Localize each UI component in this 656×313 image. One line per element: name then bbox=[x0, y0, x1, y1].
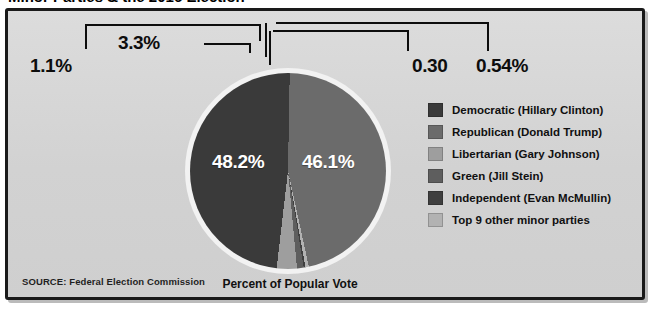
source-note: SOURCE: Federal Election Commission bbox=[22, 276, 205, 287]
callout-label-other: 0.54% bbox=[476, 55, 528, 77]
legend-label: Republican (Donald Trump) bbox=[452, 126, 602, 138]
legend-label: Independent (Evan McMullin) bbox=[452, 192, 611, 204]
slice-label-republican: 46.1% bbox=[302, 151, 354, 173]
legend-row: Green (Jill Stein) bbox=[428, 165, 643, 187]
pie-chart: 48.2% 46.1% bbox=[190, 73, 386, 269]
headline-clipped: Minor Parties & the 2016 Election bbox=[8, 0, 308, 6]
legend-row: Top 9 other minor parties bbox=[428, 209, 643, 231]
legend-swatch-icon bbox=[428, 147, 443, 161]
legend-swatch-icon bbox=[428, 191, 443, 205]
legend: Democratic (Hillary Clinton)Republican (… bbox=[428, 99, 643, 231]
infographic-figure: Minor Parties & the 2016 Election 48.2% … bbox=[0, 0, 656, 313]
legend-swatch-icon bbox=[428, 103, 443, 117]
legend-label: Libertarian (Gary Johnson) bbox=[452, 148, 600, 160]
legend-row: Republican (Donald Trump) bbox=[428, 121, 643, 143]
legend-row: Independent (Evan McMullin) bbox=[428, 187, 643, 209]
callout-label-independent: 0.30 bbox=[412, 55, 447, 77]
legend-swatch-icon bbox=[428, 213, 443, 227]
slice-label-democratic: 48.2% bbox=[212, 151, 264, 173]
legend-label: Green (Jill Stein) bbox=[452, 170, 543, 182]
chart-panel: 48.2% 46.1% Percent of Popular Vote 1.1%… bbox=[5, 8, 645, 300]
legend-swatch-icon bbox=[428, 125, 443, 139]
legend-row: Libertarian (Gary Johnson) bbox=[428, 143, 643, 165]
callout-label-libertarian: 3.3% bbox=[118, 32, 160, 54]
callout-label-green: 1.1% bbox=[30, 55, 72, 77]
legend-swatch-icon bbox=[428, 169, 443, 183]
legend-row: Democratic (Hillary Clinton) bbox=[428, 99, 643, 121]
legend-label: Democratic (Hillary Clinton) bbox=[452, 104, 603, 116]
legend-label: Top 9 other minor parties bbox=[452, 214, 590, 226]
headline-text: Minor Parties & the 2016 Election bbox=[8, 0, 308, 6]
